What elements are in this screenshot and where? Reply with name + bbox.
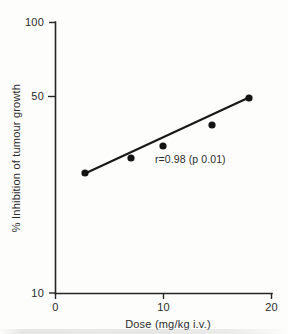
dose-response-chart: 100 50 10 0 10 20 Dose (mg/kg i.v.) % In… [0, 0, 288, 334]
data-point [159, 142, 166, 149]
x-tick-label-20: 20 [265, 301, 278, 313]
data-point [245, 94, 252, 101]
correlation-annotation: r=0.98 (p 0.01) [155, 153, 226, 165]
y-tick-label-10: 10 [31, 287, 44, 299]
data-point [81, 169, 88, 176]
y-tick-label-50: 50 [31, 90, 44, 102]
figure-container: 100 50 10 0 10 20 Dose (mg/kg i.v.) % In… [0, 0, 288, 334]
x-tick-label-10: 10 [157, 301, 170, 313]
x-axis-title: Dose (mg/kg i.v.) [125, 318, 211, 330]
y-axis-title: % Inhibition of tumour growth [10, 84, 22, 232]
data-point [208, 121, 215, 128]
x-tick-label-0: 0 [52, 301, 58, 313]
data-point [127, 154, 134, 161]
y-tick-label-100: 100 [25, 16, 44, 28]
